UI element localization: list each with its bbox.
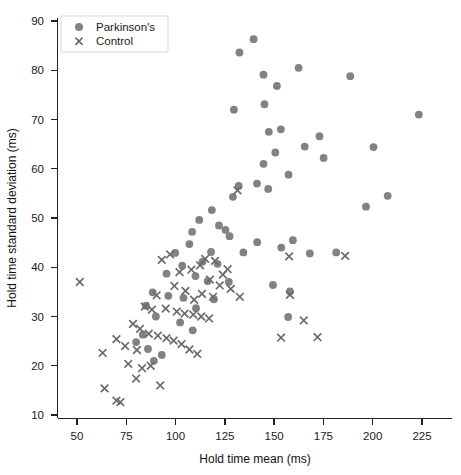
data-point-parkinsons — [152, 313, 160, 321]
data-point-parkinsons — [185, 240, 193, 248]
y-tick-label: 20 — [31, 360, 44, 372]
data-point-parkinsons — [132, 338, 140, 346]
y-tick-label: 60 — [31, 163, 44, 175]
data-point-control — [124, 360, 132, 368]
data-point-parkinsons — [260, 71, 268, 79]
data-point-parkinsons — [260, 160, 268, 168]
data-point-parkinsons — [306, 250, 314, 258]
data-point-parkinsons — [285, 171, 293, 179]
data-point-control — [162, 305, 170, 313]
data-point-parkinsons — [253, 180, 261, 188]
data-point-control — [186, 346, 194, 354]
data-point-control — [171, 282, 179, 290]
data-point-control — [285, 253, 293, 261]
data-point-control — [190, 311, 198, 319]
scatter-plot-figure: 102030405060708090 507510012515017520022… — [0, 0, 461, 475]
data-point-control — [133, 346, 141, 354]
series-control — [76, 187, 349, 406]
data-point-control — [176, 268, 184, 276]
x-tick-label: 100 — [166, 430, 185, 442]
data-point-control — [236, 293, 244, 301]
x-tick-label: 75 — [120, 430, 133, 442]
data-point-parkinsons — [289, 236, 297, 244]
y-tick-label: 70 — [31, 114, 44, 126]
data-point-parkinsons — [415, 111, 423, 119]
x-tick-label: 225 — [412, 430, 431, 442]
data-point-control — [182, 287, 190, 295]
data-point-control — [173, 308, 181, 316]
x-axis-title: Hold time mean (ms) — [199, 452, 310, 466]
data-point-parkinsons — [163, 270, 171, 278]
data-point-parkinsons — [180, 294, 188, 302]
data-point-control — [277, 334, 285, 342]
data-point-control — [121, 342, 129, 350]
x-tick-label: 50 — [71, 430, 84, 442]
data-point-parkinsons — [176, 319, 184, 327]
data-point-parkinsons — [236, 49, 244, 57]
data-point-control — [216, 282, 224, 290]
data-point-parkinsons — [265, 128, 273, 136]
data-point-parkinsons — [250, 35, 258, 43]
x-tick-label: 125 — [215, 430, 234, 442]
data-point-control — [163, 334, 171, 342]
data-point-parkinsons — [158, 351, 166, 359]
y-tick-label: 30 — [31, 311, 44, 323]
data-point-control — [314, 333, 322, 341]
data-point-control — [198, 290, 206, 298]
data-point-control — [300, 317, 308, 325]
x-tick-label: 150 — [265, 430, 284, 442]
data-point-control — [188, 266, 196, 274]
data-point-parkinsons — [195, 216, 203, 224]
data-point-parkinsons — [230, 106, 238, 114]
y-tick-label: 80 — [31, 64, 44, 76]
plot-canvas: 102030405060708090 507510012515017520022… — [0, 0, 461, 475]
series-parkinson-s — [132, 35, 423, 364]
data-point-control — [148, 306, 156, 314]
data-point-control — [154, 332, 162, 340]
data-point-parkinsons — [295, 64, 303, 72]
data-point-control — [227, 285, 235, 293]
x-axis-ticks: 5075100125150175200225 — [71, 419, 432, 443]
x-tick-label: 175 — [314, 430, 333, 442]
data-point-control — [178, 340, 186, 348]
data-points-layer — [76, 35, 423, 406]
data-point-control — [193, 350, 201, 358]
data-point-control — [205, 315, 213, 323]
data-point-parkinsons — [215, 221, 223, 229]
data-point-parkinsons — [271, 149, 279, 157]
data-point-parkinsons — [264, 185, 272, 193]
legend-marker-parkinsons — [75, 23, 83, 31]
data-point-parkinsons — [208, 206, 216, 214]
data-point-parkinsons — [316, 132, 324, 140]
data-point-parkinsons — [301, 143, 309, 151]
data-point-parkinsons — [332, 249, 340, 257]
data-point-control — [181, 310, 189, 318]
legend: Parkinson's Control — [61, 16, 168, 52]
data-point-control — [138, 364, 146, 372]
y-axis-title: Hold time standard deviation (ms) — [5, 128, 19, 307]
data-point-control — [101, 385, 109, 393]
data-point-control — [99, 349, 107, 357]
x-tick-label: 200 — [363, 430, 382, 442]
data-point-parkinsons — [362, 203, 370, 211]
y-tick-label: 90 — [31, 15, 44, 27]
data-point-parkinsons — [189, 326, 197, 334]
data-point-control — [113, 335, 121, 343]
data-point-parkinsons — [284, 313, 292, 321]
data-point-parkinsons — [261, 100, 269, 108]
data-point-parkinsons — [239, 249, 247, 257]
data-point-control — [136, 325, 144, 333]
data-point-control — [129, 320, 137, 328]
data-point-parkinsons — [277, 244, 285, 252]
y-tick-label: 40 — [31, 261, 44, 273]
data-point-control — [341, 252, 349, 260]
data-point-control — [219, 271, 227, 279]
data-point-parkinsons — [225, 278, 233, 286]
data-point-control — [76, 278, 84, 286]
data-point-control — [156, 382, 164, 390]
data-point-parkinsons — [144, 345, 152, 353]
y-tick-label: 50 — [31, 212, 44, 224]
data-point-parkinsons — [229, 193, 237, 201]
data-point-parkinsons — [253, 238, 261, 246]
data-point-parkinsons — [222, 226, 230, 234]
